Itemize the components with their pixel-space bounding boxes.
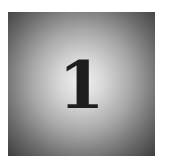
numeral-one: 1 [8,12,155,156]
number-tile: 1 [8,12,155,156]
